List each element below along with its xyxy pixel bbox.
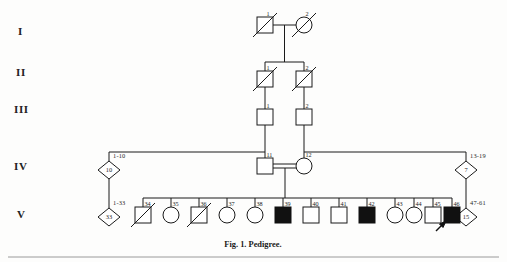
sibship-group-iv-left-count: 10 (106, 166, 112, 173)
lineage-lines (109, 25, 466, 208)
individual-v-41-id-label: 41 (341, 200, 347, 207)
individual-v-42-square-symbol[interactable] (359, 207, 375, 223)
individual-iii-2-square-symbol[interactable] (296, 109, 312, 125)
individual-v-42-id-label: 42 (369, 200, 375, 207)
individual-ii-1-id-label: 1 (267, 64, 270, 71)
individual-v-37-id-label: 37 (229, 200, 235, 207)
individual-v-34-id-label: 34 (145, 200, 151, 207)
individual-v-39-square-symbol[interactable] (275, 207, 291, 223)
sibship-group-v-left[interactable]: 331-33 (98, 199, 126, 226)
sibship-group-v-right-range: 47-61 (470, 199, 486, 206)
individual-v-40-id-label: 40 (313, 200, 319, 207)
sibship-group-v-left-range: 1-33 (113, 199, 126, 206)
individual-iv-12-circle-symbol[interactable] (296, 158, 312, 174)
individual-i-1-id-label: 1 (267, 10, 270, 17)
individual-ii-2-id-label: 2 (306, 64, 309, 71)
sibship-group-v-left-count: 33 (106, 213, 112, 220)
individual-i-2[interactable]: 2 (292, 10, 316, 38)
pedigree-diagram: IIIIIIIVV 101-10713-19331-331547-61 1212… (0, 0, 507, 262)
individual-v-37-circle-symbol[interactable] (219, 207, 235, 223)
figure-caption: Fig. 1. Pedigree. (224, 240, 281, 249)
generation-label-v: V (17, 208, 26, 220)
generation-label-i: I (18, 25, 23, 37)
generation-label-iv: IV (14, 160, 27, 172)
individual-iii-2-id-label: 2 (306, 102, 309, 109)
individual-i-1[interactable]: 1 (253, 10, 277, 38)
individual-v-36-id-label: 36 (201, 200, 207, 207)
individual-iii-1-square-symbol[interactable] (257, 109, 273, 125)
individual-v-38-id-label: 38 (257, 200, 263, 207)
sibship-group-iv-left-range: 1-10 (113, 152, 126, 159)
individual-v-43-id-label: 43 (397, 200, 403, 207)
individual-iv-11-square-symbol[interactable] (257, 158, 273, 174)
individual-iv-11-id-label: 11 (267, 151, 273, 158)
individual-v-41-square-symbol[interactable] (331, 207, 347, 223)
individual-v-35-id-label: 35 (173, 200, 179, 207)
individual-v-44-circle-symbol[interactable] (406, 207, 422, 223)
sibship-group-iv-left[interactable]: 101-10 (98, 152, 126, 179)
generation-label-layer: IIIIIIIVV (14, 25, 29, 220)
generation-label-ii: II (16, 66, 26, 78)
individual-v-46-id-label: 46 (454, 200, 460, 207)
sibship-group-iv-right[interactable]: 713-19 (455, 152, 486, 179)
pedigree-figure: IIIIIIIVV 101-10713-19331-331547-61 1212… (0, 0, 507, 262)
individual-i-2-id-label: 2 (306, 10, 309, 17)
individual-v-38-circle-symbol[interactable] (247, 207, 263, 223)
individual-v-44-id-label: 44 (416, 200, 422, 207)
individual-v-40-square-symbol[interactable] (303, 207, 319, 223)
generation-label-iii: III (14, 103, 29, 115)
individual-iii-1-id-label: 1 (267, 102, 270, 109)
individual-v-45-square-symbol[interactable] (425, 207, 441, 223)
individual-v-45-id-label: 45 (435, 200, 441, 207)
individual-v-39-id-label: 39 (285, 200, 291, 207)
sibship-group-iv-right-range: 13-19 (470, 152, 486, 159)
individual-v-35-circle-symbol[interactable] (163, 207, 179, 223)
individual-v-43-circle-symbol[interactable] (387, 207, 403, 223)
sibship-group-v-right-count: 15 (463, 213, 469, 220)
individual-iv-12-id-label: 12 (306, 151, 312, 158)
